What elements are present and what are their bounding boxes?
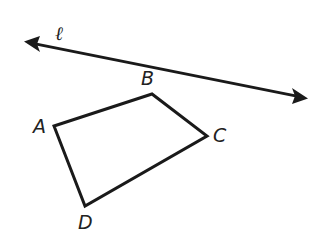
diagram-canvas: ℓ B A C D bbox=[0, 0, 315, 249]
line-l bbox=[24, 36, 308, 104]
geometry-figure bbox=[0, 0, 315, 249]
vertex-label-c: C bbox=[213, 126, 226, 145]
vertex-label-d: D bbox=[78, 213, 93, 232]
quadrilateral-abcd bbox=[54, 94, 207, 206]
vertex-label-b: B bbox=[141, 69, 154, 88]
line-label: ℓ bbox=[55, 24, 63, 43]
vertex-label-a: A bbox=[33, 117, 46, 136]
